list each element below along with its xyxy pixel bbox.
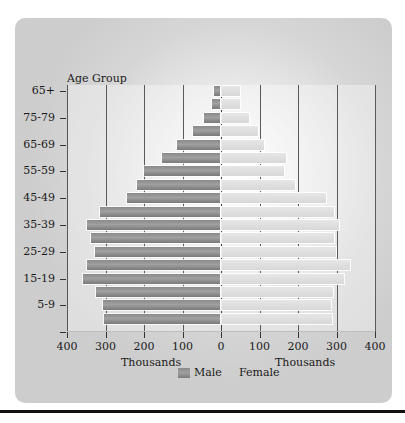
bar-female [222,247,336,257]
legend-label-female: Female [239,366,280,379]
x-tick-label: 400 [52,340,82,353]
y-tick-label: 65+ [5,84,55,97]
y-tick [60,305,66,306]
bar-male [95,247,220,257]
x-tick [183,332,184,338]
plot-area [67,85,375,332]
y-tick-label: 65-69 [5,138,55,151]
bar-female [222,86,240,96]
bar-male [87,220,220,230]
x-tick [221,332,222,338]
bar-female [222,314,332,324]
y-tick-label: 55-59 [5,164,55,177]
bar-male [91,233,220,243]
bar-female [222,207,334,217]
gridline [375,85,376,332]
y-tick-label: 35-39 [5,218,55,231]
bar-male [100,207,220,217]
y-axis-title: Age Group [67,72,127,85]
y-axis-line [67,85,68,332]
y-tick-label: 75-79 [5,111,55,124]
y-tick [60,198,66,199]
bar-male [214,86,220,96]
bar-female [222,193,326,203]
legend-item-female: Female [239,366,280,379]
bar-male [162,153,220,163]
bar-female [222,99,240,109]
x-tick [375,332,376,338]
bar-female [222,260,350,270]
bar-female [222,300,331,310]
y-tick [60,145,66,146]
bar-male [212,99,220,109]
y-tick [60,279,66,280]
x-tick-label: 300 [91,340,121,353]
x-tick [106,332,107,338]
x-tick-label: 100 [245,340,275,353]
bar-male [144,166,220,176]
bar-male [83,274,220,284]
x-tick [337,332,338,338]
legend-item-male: Male [178,366,222,379]
x-tick [260,332,261,338]
y-tick [60,225,66,226]
bar-male [104,314,220,324]
y-tick-label: 45-49 [5,191,55,204]
y-tick-label: 5-9 [5,298,55,311]
divider-line [0,410,405,413]
y-tick-label: 15-19 [5,272,55,285]
x-tick-label: 200 [283,340,313,353]
bar-male [204,113,220,123]
x-tick-label: 0 [206,340,236,353]
bar-male [96,287,220,297]
x-tick [298,332,299,338]
legend-label-male: Male [194,366,222,379]
y-tick-label: 25-29 [5,245,55,258]
bar-male [103,300,220,310]
male-swatch-icon [178,368,190,378]
y-tick [60,332,66,333]
bar-male [177,140,220,150]
x-axis-unit-right: Thousands [275,356,335,369]
bar-male [193,126,220,136]
bar-male [87,260,220,270]
bar-female [222,274,344,284]
bar-female [222,140,264,150]
bar-female [222,233,334,243]
bar-female [222,126,258,136]
y-tick [60,171,66,172]
x-tick [144,332,145,338]
y-tick [60,118,66,119]
bar-male [137,180,220,190]
y-tick [60,252,66,253]
gridline [337,85,338,332]
bar-female [222,287,333,297]
y-tick [60,91,66,92]
bar-female [222,180,295,190]
bar-female [222,220,339,230]
bar-female [222,153,286,163]
bar-female [222,166,284,176]
x-tick-label: 400 [360,340,390,353]
x-tick-label: 300 [322,340,352,353]
bar-female [222,113,249,123]
x-tick [67,332,68,338]
x-tick-label: 100 [168,340,198,353]
bar-male [127,193,220,203]
x-axis-unit-left: Thousands [121,356,181,369]
x-tick-label: 200 [129,340,159,353]
